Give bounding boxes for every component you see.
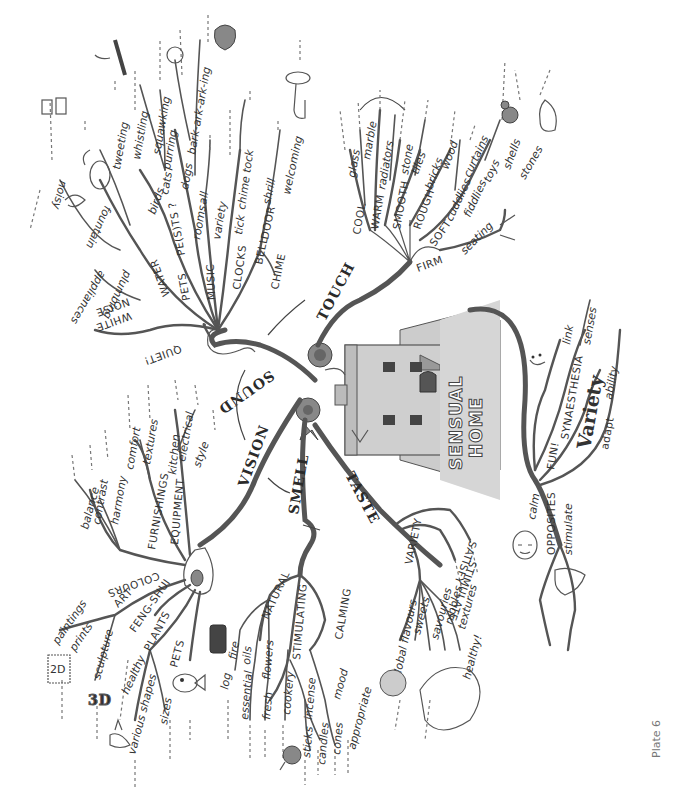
- face-calm-icon: [513, 531, 537, 559]
- touch-rough: ROUGH: [411, 187, 437, 230]
- sound-cats: cats: [158, 171, 175, 196]
- smell-natural: NATURAL: [259, 569, 292, 621]
- mind-map: SENSUAL HOME SOUND TOUCH VISION SMELL TA…: [0, 0, 673, 792]
- smiley-icon: [530, 354, 545, 365]
- smell-cones: cones: [330, 722, 346, 756]
- speaker-icon: [42, 98, 66, 114]
- vision-pets: PETS: [167, 638, 186, 668]
- vision-sizes: sizes: [157, 696, 175, 725]
- vision-textures: textures: [140, 418, 161, 466]
- bird-icon: [95, 40, 125, 75]
- sound-chime: CHIME: [268, 252, 287, 290]
- touch-toys: toys: [481, 157, 503, 184]
- central-title-line2: HOME: [466, 397, 486, 458]
- smell-appropriate: appropriate: [345, 685, 374, 751]
- smell-essential: essential: [238, 670, 255, 720]
- stamp-2d-icon: 2D: [48, 655, 70, 683]
- sound-tick: tick: [232, 213, 248, 235]
- sound-quiet: QUIET!: [142, 343, 183, 368]
- central-title-line1: SENSUAL: [446, 375, 466, 470]
- smell-flowers: flowers: [260, 639, 276, 680]
- tornado-icon: [65, 195, 85, 207]
- fish-icon: [173, 674, 205, 692]
- vision-furnishings: FURNISHINGS: [145, 472, 170, 551]
- log-fire-icon: [210, 625, 226, 653]
- vision-equipment: EQUIPMENT: [168, 478, 186, 545]
- smell-fresh: fresh: [260, 691, 275, 720]
- shell-icon: [540, 100, 557, 131]
- smell-mood: mood: [330, 666, 351, 700]
- sound-music: MUSIC: [204, 264, 217, 301]
- smell-calming: CALMING: [332, 587, 353, 640]
- smell-incense: incense: [302, 677, 319, 721]
- doorbell-hand-icon: [286, 72, 310, 118]
- smell-sticks: sticks: [300, 726, 316, 759]
- home-stimulate: stimulate: [562, 503, 575, 555]
- teddy-bear-icon: [501, 101, 518, 123]
- home-opposites: OPPOSITES: [545, 492, 557, 555]
- smell-stimulating: STIMULATING: [290, 583, 309, 660]
- sound-water: WATER: [147, 258, 172, 299]
- smell-cookery: cookery: [280, 670, 297, 715]
- dog-icon: [214, 25, 235, 50]
- home-link: link: [560, 323, 576, 345]
- home-calm: calm: [525, 492, 542, 520]
- sound-noisy: noisy: [49, 179, 69, 211]
- smell-candles: candles: [315, 722, 332, 766]
- smell-log: log: [218, 672, 234, 691]
- sculpture-3d-label: 3D: [88, 692, 112, 708]
- branch-label-smell: SMELL: [285, 453, 311, 516]
- branch-label-taste: TASTE: [342, 469, 383, 527]
- stamp-2d-label: 2D: [50, 663, 65, 676]
- touch-shells: shells: [501, 137, 524, 171]
- sound-barking: bark-ark-ark-ing: [185, 66, 213, 156]
- sound-dogs: dogs: [178, 162, 195, 191]
- vision-sculpture: sculpture: [90, 628, 116, 681]
- vision-style: style: [191, 440, 212, 469]
- sound-shrill: shrill: [260, 177, 278, 206]
- home-adapt: adapt: [598, 416, 616, 450]
- home-subbranches: [534, 300, 620, 650]
- touch-warm: WARM: [368, 193, 386, 230]
- globe-icon: [380, 670, 406, 696]
- touch-firm: FIRM: [415, 253, 445, 274]
- sculpture-3d-icon: 3D: [88, 692, 112, 708]
- touch-cool: COOL: [350, 202, 367, 235]
- touch-seating: seating: [458, 219, 496, 257]
- home-senses: senses: [580, 306, 599, 346]
- branch-label-sound: SOUND: [215, 368, 277, 418]
- sound-welcoming: welcoming: [280, 135, 305, 196]
- fountain-icon: [83, 150, 110, 189]
- taste-variety: VARIETY: [402, 517, 424, 566]
- plate-label: Plate 6: [650, 720, 663, 758]
- sound-variety: variety: [210, 200, 230, 241]
- sound-tweeting: tweeting: [110, 121, 131, 171]
- branch-label-touch: TOUCH: [314, 259, 358, 323]
- sound-rooms: rooms: [190, 204, 209, 240]
- smell-oils: oils: [240, 645, 255, 665]
- home-ability: ability: [602, 365, 621, 401]
- sound-fountain: fountain: [83, 204, 114, 251]
- vision-harmony: harmony: [108, 474, 129, 525]
- sound-all: all: [196, 191, 211, 206]
- sensual-home-banner: SENSUAL HOME: [440, 300, 500, 500]
- sound-door: DOOR: [258, 205, 277, 241]
- sound-whistling: whistling: [130, 110, 151, 161]
